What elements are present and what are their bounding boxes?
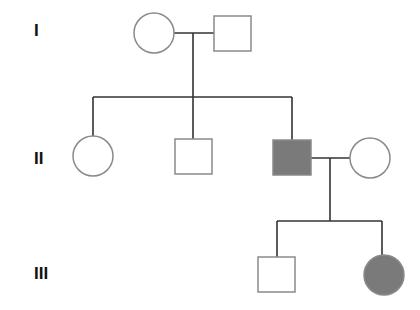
female-unaffected-II-1: [73, 136, 113, 176]
generation-label-2: II: [34, 149, 43, 168]
generation-label-1: I: [34, 21, 39, 40]
female-unaffected-II-4: [350, 138, 390, 178]
male-unaffected-III-1: [258, 257, 295, 292]
male-unaffected-II-2: [175, 139, 212, 174]
female-affected-III-2: [364, 255, 404, 295]
female-unaffected-I-1: [134, 13, 174, 53]
male-affected-II-3: [273, 140, 311, 175]
pedigree-chart: I II III: [0, 0, 420, 310]
male-unaffected-I-2: [214, 16, 251, 51]
generation-label-3: III: [34, 264, 48, 283]
